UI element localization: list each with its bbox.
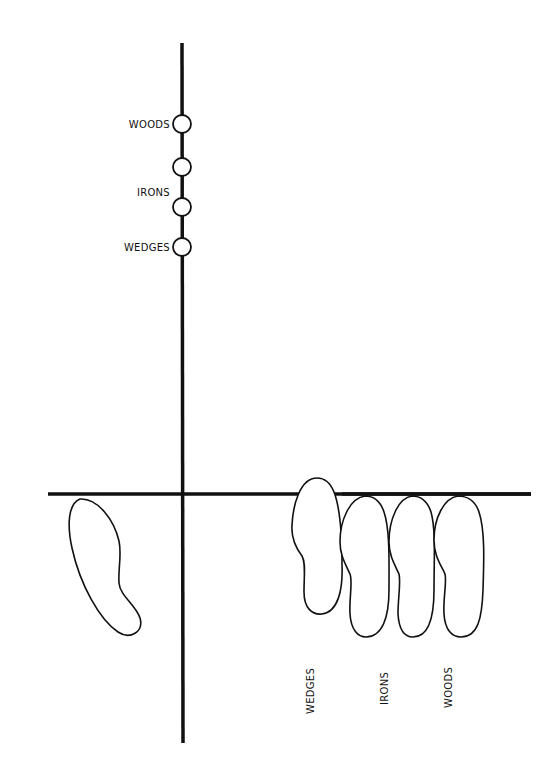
foot-label-woods: WOODS <box>443 667 454 708</box>
ball-circle-woods <box>173 115 191 133</box>
ball-label-wedges: WEDGES <box>124 242 170 253</box>
ball-circle-mid <box>173 158 191 176</box>
irons-foot-outline <box>340 496 389 637</box>
woods-foot-outline <box>434 496 484 637</box>
wedges-foot-outline <box>292 478 342 614</box>
golf-stance-diagram: WOODS IRONS WEDGES WEDGES IRONS WOODS <box>0 0 560 777</box>
ball-label-irons: IRONS <box>137 187 170 198</box>
left-foot-outline <box>69 499 141 635</box>
foot-label-irons: IRONS <box>379 672 390 705</box>
ball-label-woods: WOODS <box>129 119 170 130</box>
vertical-target-line <box>182 43 183 743</box>
ball-circle-irons <box>173 198 191 216</box>
ball-circle-wedges <box>173 238 191 256</box>
mid-foot-outline <box>389 496 434 637</box>
foot-label-wedges: WEDGES <box>305 668 316 714</box>
